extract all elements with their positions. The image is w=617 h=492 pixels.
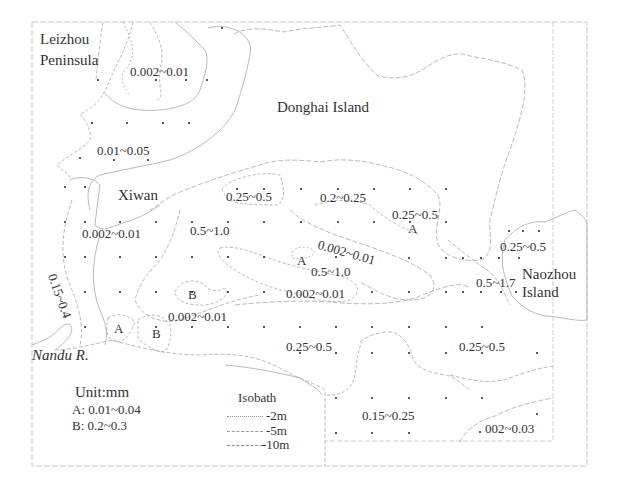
legend-isobath-10m: -10m xyxy=(262,438,289,451)
zone-label: 0.5~1.0 xyxy=(190,224,230,237)
legend-line-2m xyxy=(227,416,263,417)
place-label-peninsula: Peninsula xyxy=(40,53,98,68)
zone-label: 0.25~0.5 xyxy=(500,240,546,253)
subzone-label: B xyxy=(188,288,197,301)
zone-label: 0.25~0.5 xyxy=(392,208,438,221)
zone-label: 0.002~0.01 xyxy=(286,287,345,300)
legend-line-5m xyxy=(227,431,263,432)
subzone-label: A xyxy=(297,254,306,267)
zone-label: 002~0.03 xyxy=(485,422,534,435)
zone-label: 0.15~0.25 xyxy=(362,409,415,422)
zone-label: 0.5~1.0 xyxy=(311,265,351,278)
zone-label: 0.25~0.5 xyxy=(286,340,332,353)
inner-frame xyxy=(325,22,553,441)
place-label-xiwan: Xiwan xyxy=(118,188,158,203)
place-label-donghai: Donghai Island xyxy=(277,100,369,115)
legend-isobath-title: Isobath xyxy=(238,391,276,404)
subzone-label: A xyxy=(408,222,417,235)
zone-label: 0.2~0.25 xyxy=(320,191,366,204)
zone-label: 0.002~0.01 xyxy=(82,227,141,240)
zone-label: 0.01~0.05 xyxy=(97,144,150,157)
subzone-label: B xyxy=(152,327,161,340)
subzone-label: A xyxy=(114,322,123,335)
legend-b-range: B: 0.2~0.3 xyxy=(72,419,127,432)
legend-isobath-2m: -2m xyxy=(266,409,287,422)
zone-label: 0.5~1.7 xyxy=(476,276,516,289)
place-label-naozhou: Naozhou xyxy=(522,267,576,282)
legend-line-10m xyxy=(227,445,263,446)
place-label-naozhou_island: Island xyxy=(522,285,559,300)
legend-a-range: A: 0.01~0.04 xyxy=(72,403,141,416)
legend-isobath-5m: -5m xyxy=(266,424,287,437)
place-label-leizhou: Leizhou xyxy=(40,32,89,47)
zone-label: 0.25~0.5 xyxy=(226,190,272,203)
legend-unit: Unit:mm xyxy=(75,385,129,400)
river-label: Nandu R. xyxy=(32,348,89,363)
zone-label: 0.002~0.01 xyxy=(130,65,189,78)
zone-label: 0.002~0.01 xyxy=(168,310,227,323)
